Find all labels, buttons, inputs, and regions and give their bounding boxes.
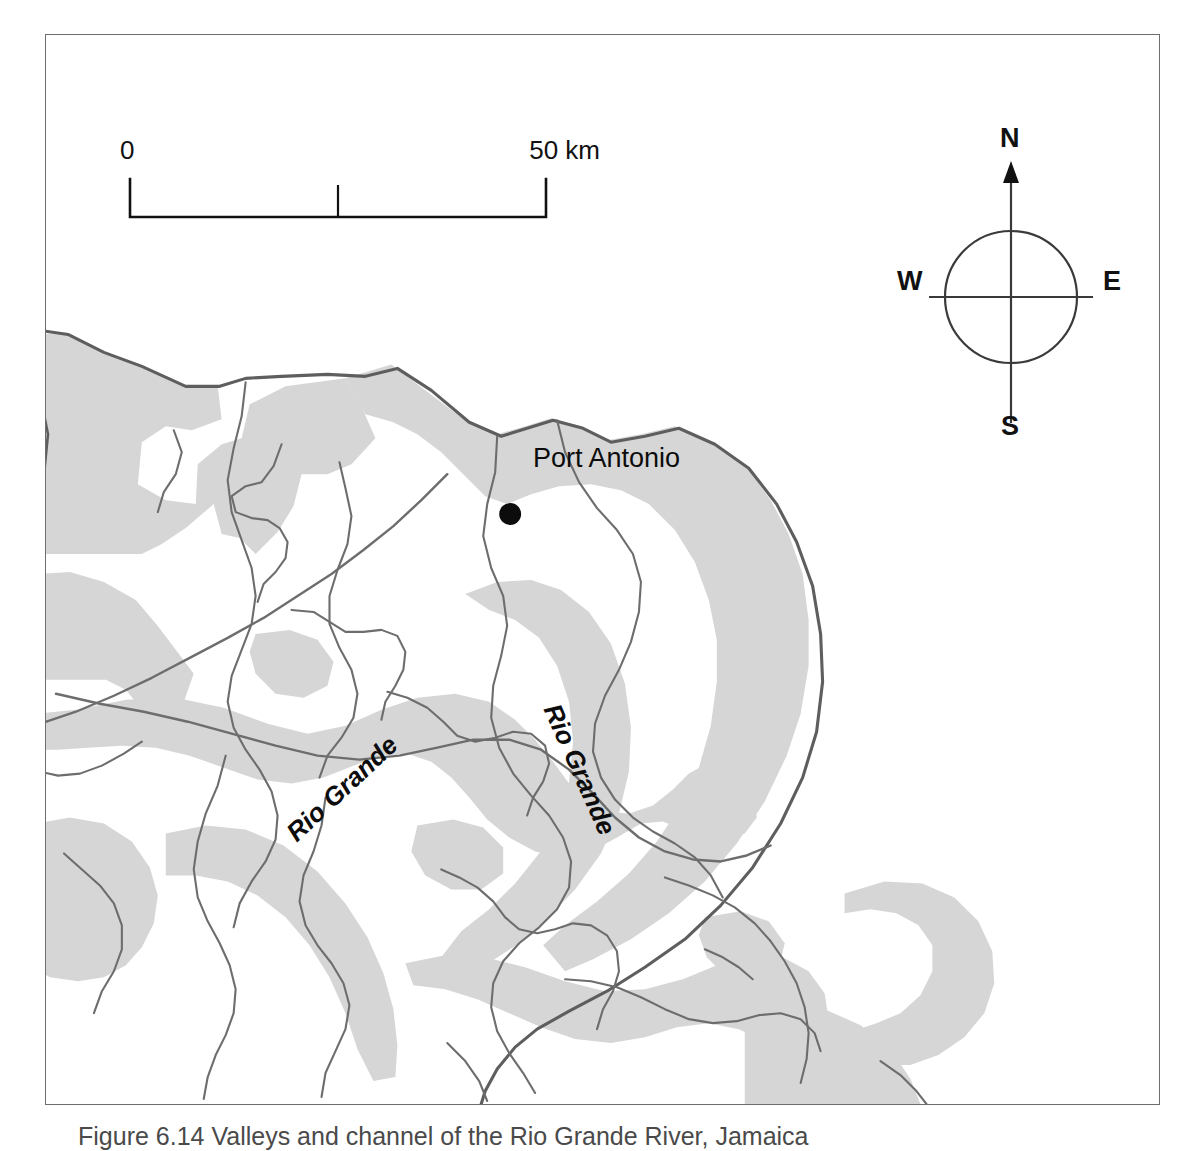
valley-band-central	[46, 694, 757, 858]
settlement-group	[499, 503, 521, 525]
map-frame: 0 50 km N S W E Port Antonio Rio Grand	[45, 34, 1160, 1105]
valley-lobe-mid	[411, 820, 503, 890]
valley-lobe-mid-left	[250, 630, 334, 698]
compass-rose-graphic	[891, 123, 1131, 453]
river-tributary-lower-left	[194, 756, 236, 1099]
compass-north-label: N	[1000, 123, 1020, 154]
scale-bar-labels: 0 50 km	[128, 135, 548, 169]
river-tributary-nw-short	[158, 430, 182, 512]
valley-band-nw	[46, 332, 375, 554]
port-antonio-dot	[499, 503, 521, 525]
valley-band-lower-left-a	[46, 818, 158, 982]
compass-rose: N S W E	[891, 123, 1131, 453]
scale-bar-graphic	[128, 177, 548, 221]
compass-south-label: S	[1001, 411, 1019, 442]
north-arrowhead	[1003, 161, 1019, 183]
compass-west-label: W	[897, 266, 922, 297]
scale-bar: 0 50 km	[128, 135, 548, 225]
valley-shading-group	[46, 332, 994, 1104]
scale-bar-max-label: 50 km	[529, 135, 600, 166]
river-stub-c	[447, 1043, 487, 1101]
settlement-label-port-antonio: Port Antonio	[533, 443, 680, 474]
figure-caption: Figure 6.14 Valleys and channel of the R…	[78, 1122, 1138, 1151]
scale-bar-min-label: 0	[120, 135, 134, 166]
valley-band-lower-left-b	[166, 826, 398, 1082]
compass-east-label: E	[1103, 266, 1121, 297]
